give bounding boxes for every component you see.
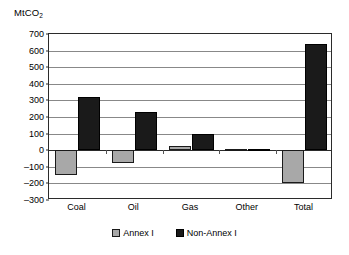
y-axis-tick-label: –300: [4, 196, 44, 205]
x-axis-label-oil: Oil: [128, 202, 139, 213]
bar-gas-non-annex-i: [192, 134, 214, 150]
x-axis-label-total: Total: [294, 202, 313, 213]
y-axis-tick-label: 400: [4, 79, 44, 88]
y-axis-tick-label: 100: [4, 129, 44, 138]
bar-total-annex-i: [282, 150, 304, 183]
legend-swatch-annex-i: [112, 229, 120, 237]
y-axis-unit-caption: MtCO2: [14, 7, 43, 19]
y-axis-tick-label: –200: [4, 179, 44, 188]
y-axis-tick-label: 600: [4, 46, 44, 55]
bar-oil-annex-i: [112, 150, 134, 162]
legend-item-non-annex-i: Non-Annex I: [176, 228, 237, 238]
y-axis-unit-text: MtCO: [14, 7, 39, 18]
bars: [49, 34, 331, 198]
bar-other-non-annex-i: [248, 149, 270, 151]
plot-area: 7006005004003002001000–100–200–300: [48, 33, 332, 199]
y-axis-tick-label: 200: [4, 113, 44, 122]
x-axis-tick-mark: [106, 150, 107, 154]
x-axis-tick-mark: [219, 150, 220, 154]
legend-label-annex-i: Annex I: [123, 228, 154, 238]
y-axis-tick-label: –100: [4, 162, 44, 171]
bar-coal-non-annex-i: [78, 97, 100, 150]
y-axis-tick-label: 500: [4, 63, 44, 72]
legend-label-non-annex-i: Non-Annex I: [187, 228, 237, 238]
x-axis-tick-mark: [163, 150, 164, 154]
bar-oil-non-annex-i: [135, 112, 157, 150]
y-axis-tick-label: 700: [4, 30, 44, 39]
x-axis-label-gas: Gas: [182, 202, 199, 213]
x-axis-labels: CoalOilGasOtherTotal: [48, 202, 332, 216]
bar-total-non-annex-i: [305, 44, 327, 150]
x-axis-tick-mark: [276, 150, 277, 154]
legend-swatch-non-annex-i: [176, 229, 184, 237]
emissions-bar-chart: MtCO2 7006005004003002001000–100–200–300…: [0, 0, 349, 255]
y-axis-tick-label: 300: [4, 96, 44, 105]
bar-other-annex-i: [225, 149, 247, 151]
x-axis-label-other: Other: [236, 202, 259, 213]
y-axis-unit-subscript: 2: [39, 12, 43, 19]
bar-coal-annex-i: [55, 150, 77, 175]
y-axis-tick-mark: [46, 200, 49, 201]
bar-gas-annex-i: [169, 146, 191, 150]
y-axis-tick-label: 0: [4, 146, 44, 155]
x-axis-label-coal: Coal: [67, 202, 86, 213]
legend-item-annex-i: Annex I: [112, 228, 154, 238]
chart-legend: Annex I Non-Annex I: [0, 228, 349, 238]
